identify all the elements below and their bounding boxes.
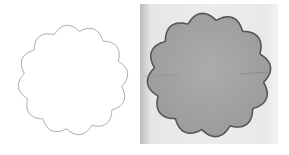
scalloped-outline-shape [0, 0, 140, 155]
photo-panel [140, 4, 278, 144]
scalloped-disc-photo [140, 4, 278, 144]
outline-panel [0, 0, 140, 155]
